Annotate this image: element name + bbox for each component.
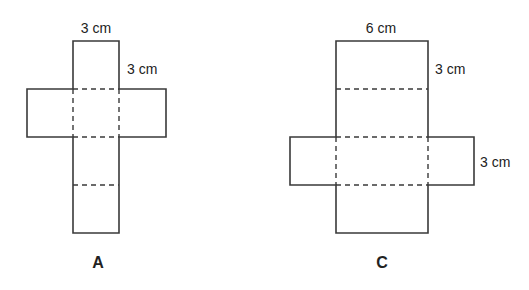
net-a-height-label: 3 cm: [127, 61, 157, 77]
net-c-height-label: 3 cm: [435, 61, 465, 77]
nets-diagram: 3 cm 3 cm A 6 cm 3 cm 3 cm C: [0, 0, 529, 290]
net-c-title: C: [376, 254, 388, 271]
net-c-width-label: 6 cm: [366, 20, 396, 36]
net-c: 6 cm 3 cm 3 cm C: [290, 20, 510, 271]
net-a-title: A: [92, 254, 104, 271]
net-a-width-label: 3 cm: [81, 20, 111, 36]
net-c-arm-label: 3 cm: [480, 154, 510, 170]
net-a: 3 cm 3 cm A: [27, 20, 166, 271]
